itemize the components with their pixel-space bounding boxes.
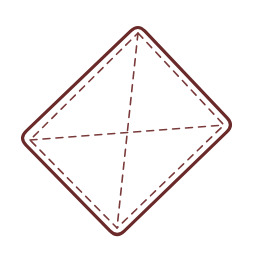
dashed-diagonal-vertical — [117, 33, 138, 228]
diagram-canvas — [0, 0, 255, 253]
outer-rounded-outline — [23, 28, 231, 235]
